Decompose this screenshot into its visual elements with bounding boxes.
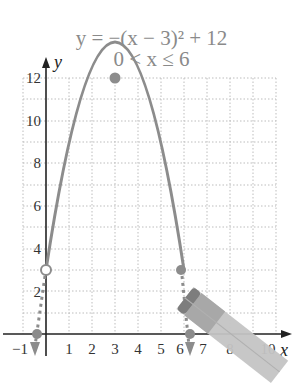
y-axis-arrow-icon xyxy=(42,57,50,68)
svg-text:4: 4 xyxy=(34,241,42,257)
svg-text:3: 3 xyxy=(111,341,119,357)
svg-text:1: 1 xyxy=(65,341,73,357)
x-intercept-point-right xyxy=(185,329,195,339)
arrow-down-icon xyxy=(185,342,195,356)
y-axis-label: y xyxy=(52,52,62,72)
svg-text:5: 5 xyxy=(157,341,165,357)
svg-text:8: 8 xyxy=(34,155,42,171)
arrow-down-icon xyxy=(30,342,40,356)
svg-text:10: 10 xyxy=(26,113,41,129)
vertex-point xyxy=(110,73,121,84)
svg-text:12: 12 xyxy=(26,70,41,86)
x-intercept-point-left xyxy=(32,329,42,339)
svg-text:7: 7 xyxy=(199,341,207,357)
svg-text:2: 2 xyxy=(88,341,96,357)
svg-text:2: 2 xyxy=(34,284,42,300)
svg-text:6: 6 xyxy=(176,341,184,357)
grid xyxy=(23,78,276,334)
svg-text:6: 6 xyxy=(34,198,42,214)
closed-point xyxy=(176,265,186,275)
x-axis-arrow-icon xyxy=(281,330,292,338)
svg-text:4: 4 xyxy=(134,341,142,357)
open-point xyxy=(41,265,51,275)
svg-text:−1: −1 xyxy=(12,341,28,357)
plot-area: y x 2 4 6 8 10 12 −1 1 2 3 4 5 6 7 8 10 xyxy=(0,0,303,384)
